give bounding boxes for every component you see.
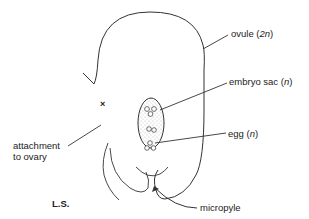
label-egg: egg (n) [228, 128, 258, 139]
attachment-leader [68, 125, 101, 146]
egg-leader [155, 133, 226, 143]
label-embryo-sac: embryo sac (n) [229, 76, 292, 87]
label-micropyle: micropyle [200, 202, 241, 213]
label-ovule: ovule (2n) [231, 28, 273, 39]
integument-left-lower [110, 148, 149, 192]
embryo-sac-leader [160, 83, 227, 110]
embryo-sac [138, 98, 164, 148]
nucellus-arc [136, 167, 168, 176]
attachment-marker: × [100, 99, 105, 110]
label-attachment: attachment to ovary [13, 140, 60, 162]
integument-left-curve [103, 143, 119, 200]
section-label: L.S. [52, 198, 69, 209]
ovule-diagram: × ovule (2n) embryo sac (n) egg (n) atta… [0, 0, 309, 219]
ovule-leader [203, 35, 228, 49]
